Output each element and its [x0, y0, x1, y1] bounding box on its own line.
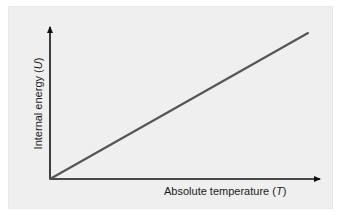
data-line-internal-energy	[50, 33, 308, 179]
plot-svg	[0, 0, 346, 215]
x-axis-label-close: )	[283, 185, 287, 197]
figure-container: Absolute temperature (T) Internal energy…	[0, 0, 346, 215]
x-axis-label-text: Absolute temperature (	[164, 185, 276, 197]
x-axis-label-symbol: T	[276, 185, 283, 197]
x-axis-label: Absolute temperature (T)	[164, 186, 286, 197]
